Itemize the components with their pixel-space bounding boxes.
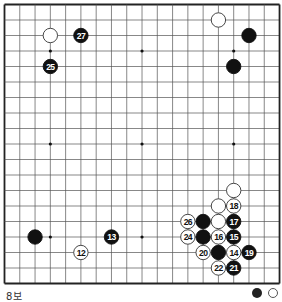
black-stone [242, 28, 256, 42]
star-point-icon [49, 142, 52, 145]
white-stone [211, 13, 225, 27]
black-stone: 17 [227, 214, 241, 228]
black-stone [211, 245, 225, 259]
legend [252, 288, 278, 298]
black-stone [28, 230, 42, 244]
black-stone: 13 [104, 230, 118, 244]
black-stone [196, 214, 210, 228]
white-stone: 14 [227, 245, 241, 259]
move-number: 24 [184, 232, 193, 242]
star-point-icon [49, 49, 52, 52]
white-stone: 20 [196, 245, 210, 259]
black-stone [227, 59, 241, 73]
star-point-icon [232, 142, 235, 145]
star-point-icon [140, 49, 143, 52]
star-point-icon [140, 235, 143, 238]
white-stone: 12 [74, 245, 88, 259]
white-stone: 16 [211, 230, 225, 244]
white-stone: 22 [211, 261, 225, 275]
black-stone: 21 [227, 261, 241, 275]
move-number: 13 [107, 232, 116, 242]
black-stone: 27 [74, 28, 88, 42]
black-stone: 25 [43, 59, 57, 73]
white-stone-icon [268, 288, 278, 298]
black-stone: 19 [242, 245, 256, 259]
black-stone [196, 230, 210, 244]
move-number: 21 [230, 263, 239, 273]
white-stone: 26 [181, 214, 195, 228]
star-point-icon [232, 49, 235, 52]
move-number: 25 [46, 62, 55, 72]
diagram-caption: 8보 [6, 288, 23, 302]
black-stone-icon [252, 288, 262, 298]
move-number: 19 [245, 248, 254, 258]
move-number: 20 [199, 248, 208, 258]
go-board: 272512131826172416152014192221 [0, 0, 282, 290]
black-stone: 15 [227, 230, 241, 244]
star-point-icon [140, 142, 143, 145]
move-number: 22 [214, 263, 223, 273]
white-stone [227, 183, 241, 197]
move-number: 26 [184, 217, 193, 227]
white-stone [43, 28, 57, 42]
move-number: 12 [77, 248, 86, 258]
white-stone [211, 214, 225, 228]
white-stone: 18 [227, 199, 241, 213]
star-point-icon [49, 235, 52, 238]
move-number: 17 [230, 217, 239, 227]
white-stone: 24 [181, 230, 195, 244]
white-stone [211, 199, 225, 213]
move-number: 14 [230, 248, 239, 258]
move-number: 27 [77, 31, 86, 41]
move-number: 15 [230, 232, 239, 242]
move-number: 18 [230, 201, 239, 211]
move-number: 16 [214, 232, 223, 242]
